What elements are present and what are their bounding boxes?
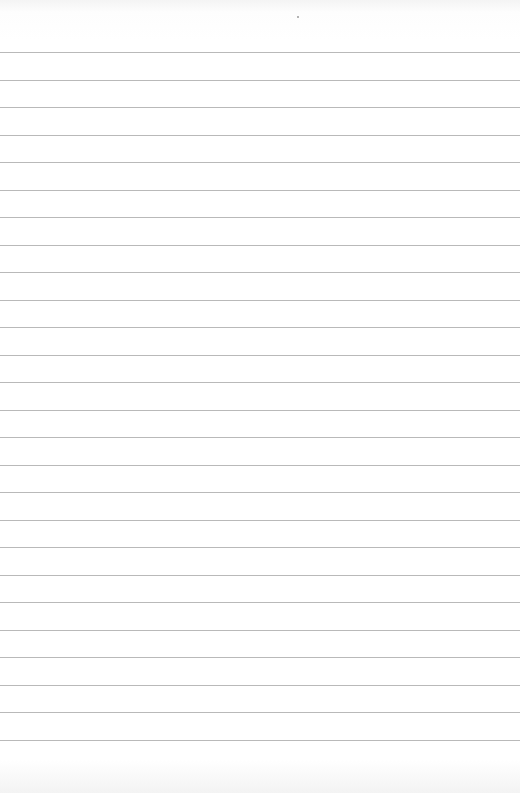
ruled-line xyxy=(0,190,520,191)
ruled-line xyxy=(0,465,520,466)
ruled-line xyxy=(0,437,520,438)
ruled-line xyxy=(0,245,520,246)
ruled-line xyxy=(0,135,520,136)
ruled-line xyxy=(0,410,520,411)
ruled-line xyxy=(0,740,520,741)
ruled-line xyxy=(0,547,520,548)
ruled-line xyxy=(0,300,520,301)
ruled-line xyxy=(0,162,520,163)
ruled-line xyxy=(0,602,520,603)
ruled-line xyxy=(0,492,520,493)
ruled-line xyxy=(0,657,520,658)
ruled-line xyxy=(0,685,520,686)
ruled-line xyxy=(0,80,520,81)
ruled-line xyxy=(0,107,520,108)
lined-paper xyxy=(0,0,520,793)
ruled-line xyxy=(0,52,520,53)
ruled-line xyxy=(0,630,520,631)
ruled-line xyxy=(0,575,520,576)
ruled-line xyxy=(0,712,520,713)
ruled-line xyxy=(0,272,520,273)
ruled-line xyxy=(0,327,520,328)
ruled-line xyxy=(0,520,520,521)
ruled-line xyxy=(0,355,520,356)
ruled-line xyxy=(0,382,520,383)
ruled-line xyxy=(0,217,520,218)
speck-mark xyxy=(297,16,299,18)
